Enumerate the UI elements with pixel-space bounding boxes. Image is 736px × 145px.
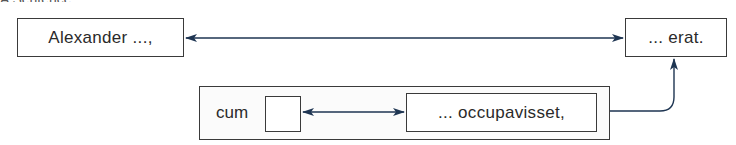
connector-arrows xyxy=(0,0,736,145)
clause-to-verb-arrow xyxy=(610,59,674,111)
